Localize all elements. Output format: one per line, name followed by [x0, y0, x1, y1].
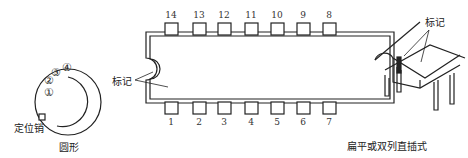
pin-number-2: 2 — [192, 117, 206, 127]
pin-number-7: 7 — [322, 117, 336, 127]
pin-4-label: ④ — [62, 61, 72, 74]
dip-3d-drawing — [375, 22, 465, 110]
ic-packages-diagram — [0, 0, 468, 158]
dip-3d-mark-label: 标记 — [425, 14, 445, 29]
pin-number-5: 5 — [270, 117, 284, 127]
pin-3-label: ③ — [51, 66, 61, 79]
pin-number-14: 14 — [164, 10, 178, 20]
pin-number-13: 13 — [192, 10, 206, 20]
pin-number-8: 8 — [322, 10, 336, 20]
dip-top-pins — [165, 23, 336, 35]
dip-package-outline — [146, 32, 394, 103]
pin-number-6: 6 — [296, 117, 310, 127]
pin-number-12: 12 — [217, 10, 231, 20]
dip-caption: 扁平或双列直插式 — [347, 138, 427, 153]
pin-number-3: 3 — [217, 117, 231, 127]
pin-number-11: 11 — [244, 10, 258, 20]
dip-mark-label: 标记 — [112, 73, 132, 88]
pin-1-label: ① — [44, 86, 54, 99]
dip-bottom-pins — [165, 102, 336, 114]
locating-pin-label: 定位销 — [14, 120, 44, 135]
pin-number-10: 10 — [270, 10, 284, 20]
pin-number-4: 4 — [244, 117, 258, 127]
pin-number-1: 1 — [164, 117, 178, 127]
round-caption: 圆形 — [59, 139, 79, 154]
pin-number-9: 9 — [296, 10, 310, 20]
